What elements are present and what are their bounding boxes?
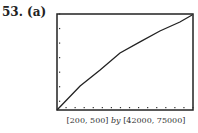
calculator-graph bbox=[0, 0, 198, 133]
graph-frame bbox=[57, 14, 193, 110]
y-range: [42000, 75000] bbox=[123, 116, 185, 125]
by-text: by bbox=[111, 116, 121, 125]
x-range: [200, 500] bbox=[67, 116, 109, 125]
window-caption: [200, 500] by [42000, 75000] bbox=[58, 116, 194, 125]
